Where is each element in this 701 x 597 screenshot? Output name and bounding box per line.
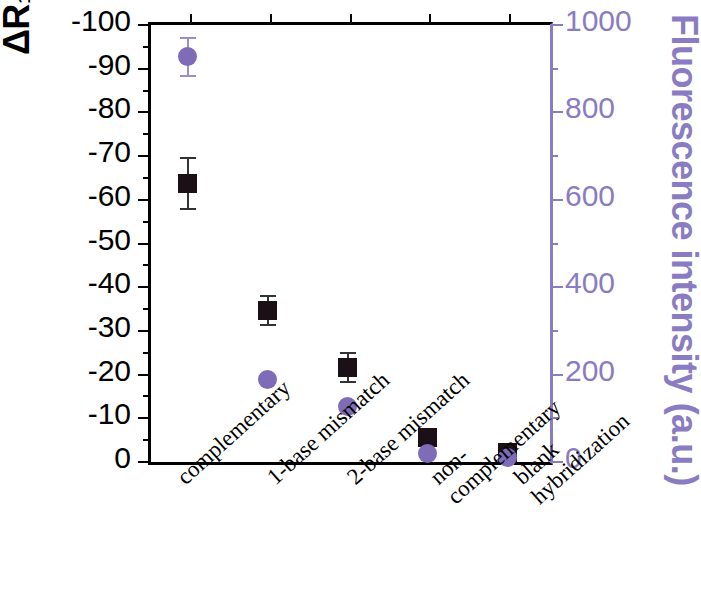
x-axis-category-labels: complementary1-base mismatch2-base misma… <box>0 0 701 597</box>
chart-container: ΔR₁/R₁ (%) Fluorescence intensity (a.u.)… <box>0 0 701 597</box>
